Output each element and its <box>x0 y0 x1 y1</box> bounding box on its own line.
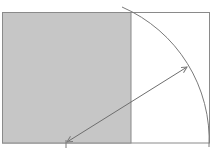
shaded-square <box>3 13 132 144</box>
golden-rectangle-diagram <box>0 0 214 150</box>
